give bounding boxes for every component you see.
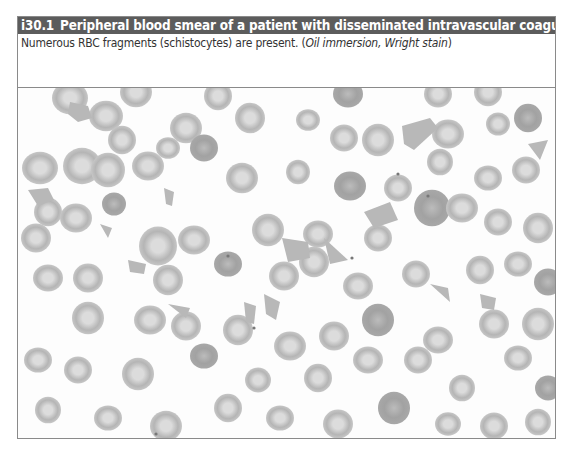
red-blood-cell bbox=[353, 347, 383, 374]
schistocyte-fragment bbox=[364, 202, 398, 228]
red-blood-cell bbox=[319, 322, 349, 351]
red-blood-cell bbox=[414, 190, 450, 227]
red-blood-cell bbox=[64, 357, 92, 384]
red-blood-cell bbox=[479, 310, 509, 339]
red-blood-cell bbox=[514, 104, 542, 133]
red-blood-cell bbox=[60, 204, 92, 233]
platelet-dot bbox=[252, 326, 255, 329]
red-blood-cell bbox=[214, 394, 242, 423]
red-blood-cell bbox=[178, 226, 210, 255]
red-blood-cell bbox=[486, 112, 510, 135]
red-blood-cell bbox=[33, 265, 63, 292]
figure-panel: i30.1Peripheral blood smear of a patient… bbox=[17, 16, 556, 439]
red-blood-cell bbox=[72, 302, 104, 335]
red-blood-cell bbox=[132, 152, 164, 181]
red-blood-cell bbox=[525, 409, 551, 436]
caption-stain-method: Oil immersion, Wright stain bbox=[306, 36, 448, 50]
platelet-dot bbox=[154, 432, 157, 435]
red-blood-cell bbox=[139, 227, 177, 266]
red-blood-cell bbox=[432, 120, 464, 149]
schistocyte-fragment bbox=[100, 224, 112, 238]
red-blood-cell bbox=[362, 124, 394, 157]
red-blood-cell bbox=[504, 251, 532, 276]
platelet-dot bbox=[426, 194, 429, 197]
red-blood-cell bbox=[24, 347, 52, 372]
red-blood-cell bbox=[343, 273, 373, 300]
platelet-dot bbox=[350, 256, 353, 259]
red-blood-cell bbox=[504, 345, 532, 370]
red-blood-cell bbox=[523, 213, 553, 244]
red-blood-cell bbox=[245, 368, 271, 393]
platelet-dot bbox=[396, 172, 399, 175]
red-blood-cell bbox=[484, 209, 512, 236]
schistocyte-fragment bbox=[264, 294, 280, 320]
red-blood-cell bbox=[266, 405, 294, 430]
figure-title: Peripheral blood smear of a patient with… bbox=[60, 18, 555, 33]
red-blood-cell bbox=[522, 308, 554, 341]
red-blood-cell bbox=[364, 225, 392, 252]
red-blood-cell bbox=[190, 343, 218, 368]
blood-smear-micrograph bbox=[18, 88, 555, 438]
red-blood-cell bbox=[435, 412, 461, 435]
red-blood-cell bbox=[134, 306, 166, 335]
schistocyte-fragment bbox=[480, 294, 496, 310]
red-blood-cell bbox=[333, 88, 363, 108]
red-blood-cell bbox=[35, 397, 61, 424]
red-blood-cell bbox=[402, 261, 430, 288]
red-blood-cell bbox=[446, 194, 478, 223]
red-blood-cell bbox=[384, 175, 412, 202]
red-blood-cell bbox=[362, 304, 394, 337]
red-blood-cell bbox=[91, 153, 125, 188]
figure-number: i30.1 bbox=[21, 18, 54, 33]
red-blood-cell bbox=[296, 109, 320, 131]
figure-caption: Numerous RBC fragments (schistocytes) ar… bbox=[18, 34, 555, 88]
red-blood-cell bbox=[535, 376, 555, 401]
red-blood-cell bbox=[378, 392, 410, 425]
schistocyte-fragment bbox=[68, 102, 92, 122]
schistocyte-fragment bbox=[164, 188, 174, 206]
red-blood-cell bbox=[73, 264, 103, 293]
red-blood-cell bbox=[102, 192, 126, 215]
red-blood-cell bbox=[252, 214, 284, 247]
red-blood-cell bbox=[122, 358, 154, 391]
schistocyte-fragment bbox=[128, 260, 146, 274]
schistocyte-fragment bbox=[430, 284, 450, 302]
red-blood-cell bbox=[190, 135, 218, 162]
red-blood-cell bbox=[474, 88, 502, 106]
red-blood-cell bbox=[424, 88, 452, 107]
figure-title-bar: i30.1Peripheral blood smear of a patient… bbox=[18, 17, 555, 34]
red-blood-cell bbox=[21, 224, 51, 253]
red-blood-cell bbox=[304, 364, 332, 393]
red-blood-cell bbox=[235, 103, 265, 134]
red-blood-cell bbox=[94, 405, 122, 430]
schistocyte-fragment bbox=[528, 140, 548, 160]
red-blood-cell bbox=[480, 413, 508, 438]
red-blood-cell bbox=[449, 375, 475, 402]
red-blood-cell bbox=[323, 410, 353, 438]
red-blood-cell bbox=[534, 269, 555, 296]
caption-close-paren: ) bbox=[448, 36, 452, 50]
red-blood-cell bbox=[334, 172, 366, 201]
red-blood-cell bbox=[269, 262, 299, 291]
red-blood-cell bbox=[286, 160, 310, 184]
red-blood-cell bbox=[22, 152, 58, 184]
red-blood-cell bbox=[156, 137, 180, 159]
platelet-dot bbox=[226, 254, 229, 257]
red-blood-cell bbox=[404, 347, 432, 374]
red-blood-cell bbox=[330, 125, 358, 152]
red-blood-cell bbox=[474, 165, 502, 190]
red-blood-cell bbox=[466, 256, 494, 285]
red-blood-cell bbox=[120, 88, 152, 107]
red-blood-cell bbox=[153, 265, 183, 296]
red-blood-cell bbox=[274, 332, 306, 361]
micrograph-svg bbox=[18, 88, 555, 438]
red-blood-cell bbox=[226, 163, 258, 194]
caption-text: Numerous RBC fragments (schistocytes) ar… bbox=[21, 36, 306, 50]
red-blood-cell bbox=[108, 126, 136, 155]
red-blood-cell bbox=[204, 88, 232, 110]
red-blood-cell bbox=[423, 327, 453, 354]
red-blood-cell bbox=[427, 149, 453, 176]
red-blood-cell bbox=[512, 157, 540, 184]
